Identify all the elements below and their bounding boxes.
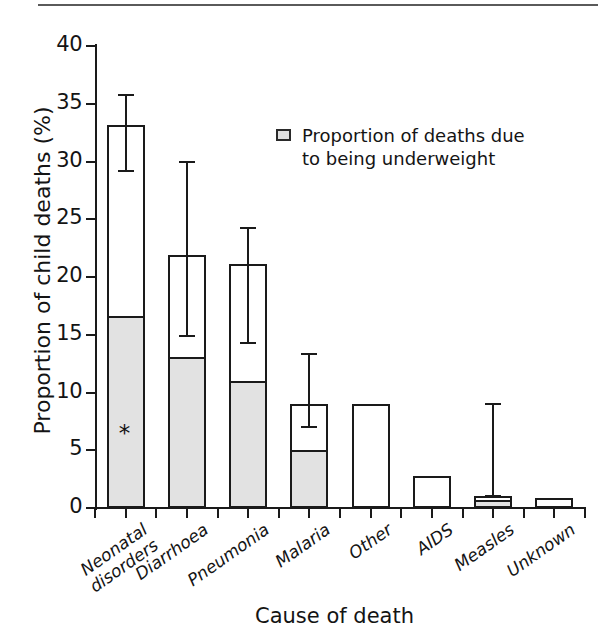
bar-underweight-portion — [107, 316, 145, 508]
y-tick-mark — [86, 334, 95, 336]
top-rule — [38, 4, 598, 6]
y-tick-mark — [86, 276, 95, 278]
x-tick-mark — [94, 509, 96, 518]
y-tick-label: 40 — [40, 34, 82, 55]
bar-total — [352, 404, 390, 508]
x-axis-title: Cause of death — [0, 604, 609, 628]
x-tick-mark — [370, 509, 372, 518]
significance-asterisk: * — [119, 422, 131, 445]
error-bar-stem — [186, 162, 188, 336]
error-bar-cap-lower — [118, 170, 134, 172]
error-bar-stem — [125, 95, 127, 171]
x-tick-mark — [400, 509, 402, 518]
legend-label: Proportion of deaths due to being underw… — [302, 124, 525, 170]
x-tick-mark — [308, 509, 310, 518]
y-tick-label: 0 — [40, 496, 82, 517]
bar-total — [535, 498, 573, 508]
x-tick-mark — [155, 509, 157, 518]
shaded-square-swatch-icon — [276, 129, 291, 141]
x-tick-mark — [217, 509, 219, 518]
x-tick-mark — [278, 509, 280, 518]
x-tick-mark — [186, 509, 188, 518]
error-bar-cap-lower — [240, 342, 256, 344]
x-tick-mark — [462, 509, 464, 518]
error-bar-cap-upper — [485, 403, 501, 405]
error-bar-stem — [247, 228, 249, 342]
bar-total — [413, 476, 451, 508]
error-bar-cap-upper — [240, 227, 256, 229]
bar-underweight-portion — [474, 500, 512, 508]
chart-figure: 0510152025303540 Proportion of child dea… — [0, 0, 609, 636]
error-bar-cap-lower — [179, 335, 195, 337]
y-tick-mark — [86, 161, 95, 163]
error-bar-cap-upper — [301, 353, 317, 355]
x-tick-mark — [431, 509, 433, 518]
error-bar-cap-upper — [118, 94, 134, 96]
error-bar-cap-lower — [301, 426, 317, 428]
x-tick-mark — [584, 509, 586, 518]
y-tick-mark — [86, 103, 95, 105]
legend: Proportion of deaths due to being underw… — [276, 124, 525, 170]
x-tick-mark — [125, 509, 127, 518]
y-tick-mark — [86, 449, 95, 451]
y-tick-mark — [86, 392, 95, 394]
x-tick-mark — [553, 509, 555, 518]
x-tick-mark — [339, 509, 341, 518]
x-tick-mark — [492, 509, 494, 518]
y-axis-title: Proportion of child deaths (%) — [30, 61, 55, 481]
error-bar-cap-lower — [485, 495, 501, 497]
y-tick-mark — [86, 45, 95, 47]
y-tick-mark — [86, 218, 95, 220]
bar-underweight-portion — [168, 357, 206, 508]
bar-underweight-portion — [290, 450, 328, 508]
y-tick-label-wrap: 40 — [40, 34, 82, 55]
bar-underweight-portion — [229, 381, 267, 508]
y-tick-label-wrap: 0 — [40, 496, 82, 517]
error-bar-cap-upper — [179, 161, 195, 163]
error-bar-stem — [492, 404, 494, 496]
error-bar-stem — [308, 354, 310, 427]
x-tick-mark — [247, 509, 249, 518]
y-axis-line — [95, 44, 97, 510]
x-tick-mark — [523, 509, 525, 518]
